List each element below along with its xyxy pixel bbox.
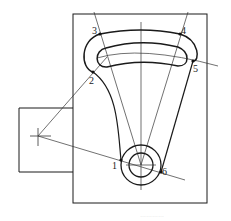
- point-1-dot: [119, 158, 122, 161]
- linkage-diagram: 1 2 3 4 5 6 …………: [0, 0, 231, 221]
- point-2-dot: [91, 70, 94, 73]
- point-label-4: 4: [181, 25, 186, 36]
- point-label-2: 2: [89, 75, 94, 86]
- construction-lines: [38, 12, 218, 190]
- point-label-5: 5: [193, 63, 198, 74]
- left-box: [19, 108, 73, 172]
- point-label-3: 3: [92, 25, 97, 36]
- figure-caption: …………: [140, 212, 164, 218]
- link-right-side: [161, 61, 193, 172]
- point-label-1: 1: [112, 160, 117, 171]
- point-label-6: 6: [162, 166, 167, 177]
- point-3-dot: [98, 32, 101, 35]
